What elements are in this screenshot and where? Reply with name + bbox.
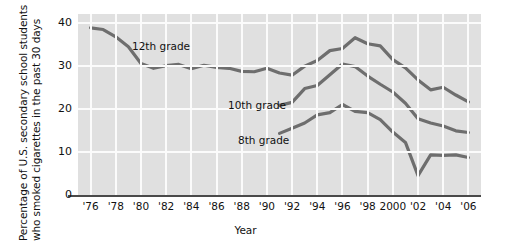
- y-axis-label: Percentage of U.S. secondary school stud…: [0, 0, 40, 247]
- gridline-vertical: [291, 14, 293, 195]
- gridline-vertical: [190, 14, 192, 195]
- gridline-vertical: [216, 14, 218, 195]
- gridline-horizontal: [78, 151, 481, 153]
- gridline-vertical: [417, 14, 419, 195]
- gridline-vertical: [341, 14, 343, 195]
- y-axis-label-line-1: Percentage of U.S. secondary school stud…: [17, 5, 29, 241]
- chart-figure: Percentage of U.S. secondary school stud…: [0, 0, 511, 247]
- y-tick-label: 10: [48, 145, 72, 158]
- x-tick-label: '06: [451, 200, 485, 212]
- series-line-8th-grade: [280, 105, 469, 176]
- series-label-8th-grade: 8th grade: [238, 134, 289, 146]
- gridline-vertical: [115, 14, 117, 195]
- gridline-vertical: [90, 14, 92, 195]
- gridline-vertical: [442, 14, 444, 195]
- y-tick-label: 30: [48, 59, 72, 72]
- x-axis-label-text: Year: [234, 224, 256, 236]
- gridline-vertical: [392, 14, 394, 195]
- y-tick-label: 20: [48, 102, 72, 115]
- x-axis-label: Year: [0, 224, 511, 236]
- y-axis-label-line-2: who smoked cigarettes in the past 30 day…: [30, 19, 42, 241]
- gridline-vertical: [316, 14, 318, 195]
- x-axis-line: [68, 195, 481, 197]
- y-tick-label: 0: [48, 188, 72, 201]
- gridline-horizontal: [78, 22, 481, 24]
- gridline-vertical: [367, 14, 369, 195]
- y-tick-label: 40: [48, 16, 72, 29]
- series-label-12th-grade: 12th grade: [132, 40, 190, 52]
- gridline-horizontal: [78, 65, 481, 67]
- series-label-10th-grade: 10th grade: [228, 99, 286, 111]
- gridline-vertical: [467, 14, 469, 195]
